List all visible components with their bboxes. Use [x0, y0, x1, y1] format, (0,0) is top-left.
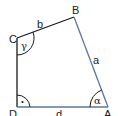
angle-label-alpha: α: [94, 95, 101, 106]
angle-right-arc: [17, 95, 30, 107]
side-label-d: d: [56, 108, 62, 116]
right-angle-dot: [21, 101, 23, 103]
side-label-a: a: [93, 54, 100, 66]
vertex-label-c: C: [9, 33, 17, 45]
vertex-label-b: B: [72, 4, 79, 16]
side-a: [74, 17, 108, 107]
side-label-b: b: [37, 18, 43, 30]
vertex-label-a: A: [104, 108, 112, 116]
angle-label-gamma: γ: [21, 40, 27, 51]
quadrilateral-diagram: B C D A b a d γ α: [0, 0, 118, 116]
side-b: [17, 17, 74, 38]
vertex-label-d: D: [9, 108, 17, 116]
